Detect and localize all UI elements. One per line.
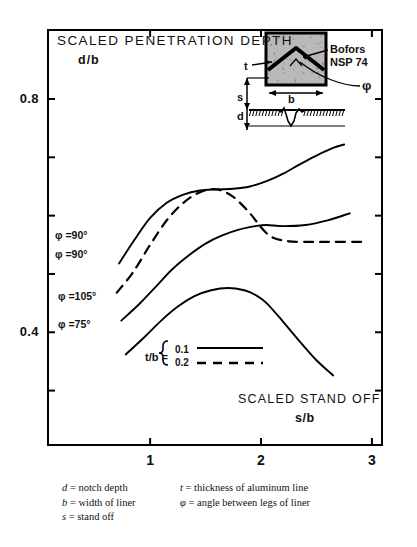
inset-texture-dot xyxy=(274,52,276,54)
inset-texture-dot xyxy=(300,38,301,39)
inset-texture-dot xyxy=(273,54,275,56)
footnote-cell: d = notch depth xyxy=(62,481,180,496)
footnote: d = notch deptht = thickness of aluminum… xyxy=(62,481,392,525)
footnote-row: b = width of linerφ = angle between legs… xyxy=(62,496,310,511)
footnote-cell: t = thickness of aluminum line xyxy=(180,481,310,496)
footnote-definition: = thickness of aluminum line xyxy=(186,482,309,493)
inset-texture-dot xyxy=(277,80,279,82)
footnote-row: d = notch deptht = thickness of aluminum… xyxy=(62,481,310,496)
inset-device-label-line2: NSP 74 xyxy=(330,56,368,69)
inset-label-s: s xyxy=(237,91,243,104)
y-tick-label: 0.4 xyxy=(3,324,39,339)
x-tick-label: 2 xyxy=(249,452,273,468)
inset-texture-dot xyxy=(315,43,316,44)
footnote-cell: s = stand off xyxy=(62,510,180,525)
inset-texture-dot xyxy=(302,72,304,74)
series-curve xyxy=(117,189,367,292)
inset-texture-dot xyxy=(293,39,294,40)
inset-texture-dot xyxy=(295,79,296,80)
footnote-cell: φ = angle between legs of liner xyxy=(180,496,310,511)
plot-canvas xyxy=(0,0,417,547)
x-tick-label: 1 xyxy=(138,452,162,468)
footnote-row: s = stand off xyxy=(62,510,310,525)
y-axis-title: d/b xyxy=(78,53,100,67)
y-tick-label: 0.8 xyxy=(3,91,39,106)
footnote-definition: = notch depth xyxy=(70,482,128,493)
inset-texture-dot xyxy=(284,63,285,64)
footnote-symbol: d xyxy=(62,482,67,493)
footnote-symbol: b xyxy=(62,497,67,508)
footnote-symbol: t xyxy=(180,482,183,493)
curve-label: φ =75° xyxy=(58,318,90,330)
footnote-symbol: s xyxy=(62,511,66,522)
inset-texture-dot xyxy=(276,57,277,58)
footnote-definition: = stand off xyxy=(69,511,114,522)
inset-texture-dot xyxy=(310,36,312,38)
inset-texture-dot xyxy=(320,47,321,48)
legend-value-solid: 0.1 xyxy=(175,344,189,355)
inset-texture-dot xyxy=(303,46,305,48)
inset-texture-dot xyxy=(322,63,324,65)
footnote-table: d = notch deptht = thickness of aluminum… xyxy=(62,481,310,525)
inset-texture-dot xyxy=(316,68,318,70)
legend-value-dashed: 0.2 xyxy=(175,357,189,368)
inset-texture-dot xyxy=(274,59,276,61)
inset-texture-dot xyxy=(318,43,319,44)
x-axis-title: SCALED STAND OFF xyxy=(238,392,381,406)
x-axis-subtitle: s/b xyxy=(295,411,315,425)
curve-label: φ =90° xyxy=(55,248,87,260)
footnote-cell: b = width of liner xyxy=(62,496,180,511)
figure: SCALED PENETRATION DEPTH d/b SCALED STAN… xyxy=(0,0,417,547)
x-tick-label: 3 xyxy=(360,452,384,468)
inset-texture-dot xyxy=(293,69,294,70)
series-curve xyxy=(119,144,344,263)
inset-texture-dot xyxy=(290,59,292,61)
chart-title: SCALED PENETRATION DEPTH xyxy=(57,33,293,48)
footnote-definition: = width of liner xyxy=(70,497,136,508)
inset-label-phi: φ xyxy=(362,80,371,93)
inset-texture-dot xyxy=(320,35,322,37)
legend-title: t/b = xyxy=(145,351,168,363)
inset-device-label-line1: Bofors xyxy=(330,43,365,56)
curve-label: φ =90° xyxy=(55,229,87,241)
inset-texture-dot xyxy=(320,42,321,43)
inset-texture-dot xyxy=(282,68,284,70)
inset-texture-dot xyxy=(294,80,296,82)
footnote-cell xyxy=(180,510,310,525)
series-curve xyxy=(121,213,349,320)
inset-label-b: b xyxy=(288,93,295,106)
footnote-symbol: φ xyxy=(180,497,186,508)
inset-texture-dot xyxy=(284,72,285,73)
inset-texture-dot xyxy=(318,76,320,78)
inset-texture-dot xyxy=(303,67,304,68)
footnote-definition: = angle between legs of liner xyxy=(188,497,310,508)
inset-label-t: t xyxy=(244,60,248,73)
inset-label-d: d xyxy=(237,110,244,123)
inset-texture-dot xyxy=(286,59,287,60)
curve-label: φ =105° xyxy=(58,290,96,302)
